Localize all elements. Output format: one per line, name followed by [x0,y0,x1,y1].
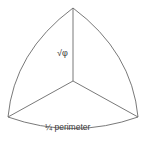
left-arc-edge [8,8,73,117]
spherical-triangle-diagram: √φ ¼ perimeter [0,0,145,142]
radial-line-left [8,81,73,117]
radial-line-right [73,81,138,117]
right-arc-edge [73,8,138,117]
arc-label: ¼ perimeter [45,122,91,132]
radial-label: √φ [57,48,68,58]
